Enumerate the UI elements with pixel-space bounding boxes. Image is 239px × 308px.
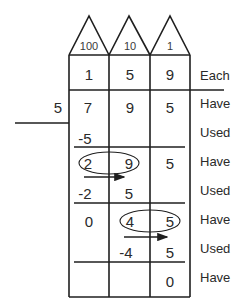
- row-label: Used: [200, 183, 230, 198]
- cell: 1: [85, 66, 93, 83]
- cell: 9: [166, 66, 174, 83]
- cell: 5: [166, 99, 174, 116]
- place-tens: 10: [124, 40, 136, 52]
- row-have-3: 0 4 5 Have: [85, 210, 231, 232]
- cell: -5: [78, 130, 91, 147]
- row-label: Each: [200, 68, 230, 83]
- cell: 5: [126, 66, 134, 83]
- cell: 4: [126, 213, 134, 230]
- cell: 7: [84, 99, 92, 116]
- cell: 5: [125, 185, 133, 202]
- row-have-4: 0 Have: [166, 270, 231, 290]
- cell: 2: [84, 155, 92, 172]
- cell: -2: [78, 185, 91, 202]
- row-used-2: -2 5 Used: [78, 177, 230, 202]
- cell: 5: [166, 155, 174, 172]
- cell: 9: [125, 155, 133, 172]
- place-value-roofs: 100 10 1: [69, 16, 190, 55]
- cell: -4: [119, 244, 132, 261]
- cell: 0: [166, 273, 174, 290]
- cell: 0: [85, 213, 93, 230]
- row-used-1: -5 Used: [78, 125, 230, 147]
- place-hundreds: 100: [80, 40, 98, 52]
- row-label: Used: [200, 241, 230, 256]
- place-ones: 1: [167, 40, 173, 52]
- cell: 5: [166, 244, 174, 261]
- row-have-1: 7 9 5 Have: [84, 96, 231, 116]
- cell: 9: [126, 99, 134, 116]
- row-used-3: -4 5 Used: [119, 237, 230, 261]
- row-label: Have: [200, 212, 230, 227]
- division-diagram: 100 10 1 5 1 5 9 Each 7 9 5 Have -5 Used: [0, 0, 239, 308]
- row-label: Have: [200, 154, 230, 169]
- row-label: Have: [200, 96, 230, 111]
- row-each: 1 5 9 Each: [85, 66, 230, 83]
- divisor: 5: [54, 99, 62, 116]
- row-label: Have: [200, 270, 230, 285]
- cell: 5: [166, 213, 174, 230]
- row-label: Used: [200, 125, 230, 140]
- row-have-2: 2 9 5 Have: [79, 152, 230, 174]
